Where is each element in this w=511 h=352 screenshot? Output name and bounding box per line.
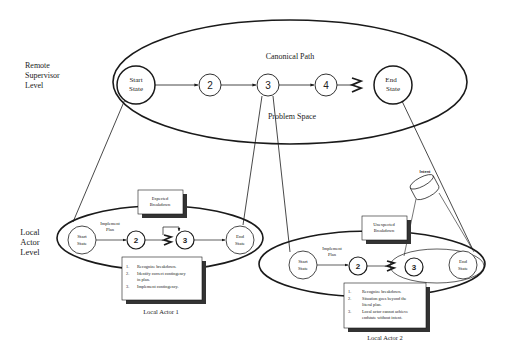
svg-text:State: State bbox=[77, 241, 88, 246]
svg-text:3.: 3. bbox=[126, 284, 129, 289]
actor2-start-state[interactable]: Start State bbox=[289, 251, 317, 279]
connector-node3-to-actor1-end bbox=[243, 96, 262, 225]
diagram-canvas: Remote Supervisor Level Local Actor Leve… bbox=[0, 0, 511, 352]
actor2-end-state[interactable]: End State bbox=[449, 251, 477, 279]
svg-text:2: 2 bbox=[356, 262, 361, 271]
actor2-steps-box: 1. Recognize breakdown. 2. Situation goe… bbox=[344, 283, 430, 332]
svg-text:Breakdown: Breakdown bbox=[374, 228, 395, 233]
actor1-steps-box: 1. Recognize breakdown. 2. Identify corr… bbox=[122, 257, 206, 304]
supervisor-start-state[interactable]: Start State bbox=[117, 66, 155, 104]
actor1-contingency-arrow bbox=[163, 227, 179, 235]
svg-text:Actor: Actor bbox=[20, 237, 40, 247]
svg-text:State: State bbox=[298, 266, 309, 271]
svg-text:in plan.: in plan. bbox=[137, 277, 150, 282]
svg-text:State: State bbox=[235, 241, 246, 246]
svg-text:Plan: Plan bbox=[328, 252, 337, 257]
svg-text:Unexpected: Unexpected bbox=[373, 222, 395, 227]
svg-text:Identify correct contingency: Identify correct contingency bbox=[137, 271, 187, 276]
svg-text:Breakdown: Breakdown bbox=[150, 202, 171, 207]
svg-text:3.: 3. bbox=[348, 309, 351, 314]
local-actor-level-label: Local Actor Level bbox=[20, 227, 40, 257]
actor2-node-3[interactable]: 3 bbox=[405, 258, 423, 276]
svg-text:Recognize breakdown.: Recognize breakdown. bbox=[137, 264, 176, 269]
svg-text:Recognize breakdown.: Recognize breakdown. bbox=[362, 289, 401, 294]
actor1-breakdown-zigzag-icon bbox=[164, 235, 171, 245]
svg-text:2.: 2. bbox=[126, 271, 129, 276]
svg-text:End: End bbox=[236, 234, 245, 239]
svg-text:End: End bbox=[459, 259, 468, 264]
svg-text:4: 4 bbox=[323, 80, 329, 91]
supervisor-node-2[interactable]: 2 bbox=[199, 74, 221, 96]
actor1-start-state[interactable]: Start State bbox=[68, 226, 96, 254]
svg-text:Plan: Plan bbox=[106, 227, 115, 232]
supervisor-node-3[interactable]: 3 bbox=[257, 74, 279, 96]
actor2-breakdown-zigzag-icon bbox=[387, 261, 394, 271]
connector-start-to-actor1 bbox=[73, 97, 126, 222]
problem-space-label: Problem Space bbox=[268, 112, 317, 121]
expected-breakdown-box: Expected Breakdown bbox=[138, 190, 187, 218]
svg-text:Start: Start bbox=[77, 234, 87, 239]
svg-text:Level: Level bbox=[20, 247, 40, 257]
actor2-title: Local Actor 2 bbox=[367, 334, 403, 341]
intent-label: Intent bbox=[420, 169, 432, 174]
svg-text:3: 3 bbox=[412, 263, 417, 272]
svg-text:Local actor cannot achieve: Local actor cannot achieve bbox=[362, 309, 408, 314]
remote-supervisor-level-label: Remote Supervisor Level bbox=[25, 61, 60, 90]
svg-text:literal plan.: literal plan. bbox=[362, 302, 382, 307]
svg-text:3: 3 bbox=[265, 80, 271, 91]
connector-end-to-actor2-end bbox=[401, 99, 473, 250]
svg-text:2.: 2. bbox=[348, 296, 351, 301]
intent-cylinder-icon: Intent bbox=[408, 169, 441, 202]
svg-text:2: 2 bbox=[207, 80, 213, 91]
unexpected-breakdown-box: Unexpected Breakdown bbox=[362, 216, 411, 244]
svg-text:1.: 1. bbox=[126, 264, 129, 269]
local-actor-2: Intent Unexpected Breakdown Implement Pl… bbox=[259, 169, 485, 341]
actor2-plan-label: Implement bbox=[322, 246, 342, 251]
svg-text:Situation goes beyond the: Situation goes beyond the bbox=[362, 296, 407, 301]
actor1-node-2[interactable]: 2 bbox=[127, 231, 145, 249]
actor2-node-2[interactable]: 2 bbox=[349, 257, 367, 275]
svg-text:1.: 1. bbox=[348, 289, 351, 294]
svg-text:Start: Start bbox=[129, 76, 142, 84]
supervisor-node-4[interactable]: 4 bbox=[315, 74, 337, 96]
supervisor-end-state[interactable]: End State bbox=[374, 66, 412, 104]
breakdown-zigzag-icon bbox=[352, 78, 361, 92]
svg-text:endstate without intent.: endstate without intent. bbox=[362, 315, 402, 320]
svg-text:Expected: Expected bbox=[152, 196, 169, 201]
svg-text:State: State bbox=[458, 266, 469, 271]
svg-text:State: State bbox=[129, 85, 143, 93]
actor1-node-3[interactable]: 3 bbox=[176, 231, 194, 249]
svg-text:Remote: Remote bbox=[25, 61, 50, 70]
svg-text:2: 2 bbox=[134, 236, 139, 245]
actor1-plan-label: Implement bbox=[100, 221, 120, 226]
svg-text:End: End bbox=[385, 76, 397, 84]
canonical-path-label: Canonical Path bbox=[266, 52, 315, 61]
svg-text:State: State bbox=[386, 85, 400, 93]
svg-text:Local: Local bbox=[20, 227, 40, 237]
actor1-title: Local Actor 1 bbox=[143, 308, 179, 315]
actor1-end-state[interactable]: End State bbox=[226, 226, 254, 254]
local-actor-1: Expected Breakdown Implement Plan Start … bbox=[57, 190, 263, 315]
svg-text:3: 3 bbox=[183, 236, 188, 245]
svg-text:Start: Start bbox=[298, 259, 308, 264]
svg-text:Implement contingency.: Implement contingency. bbox=[137, 284, 179, 289]
svg-text:Supervisor: Supervisor bbox=[25, 71, 60, 80]
svg-text:Level: Level bbox=[25, 81, 44, 90]
